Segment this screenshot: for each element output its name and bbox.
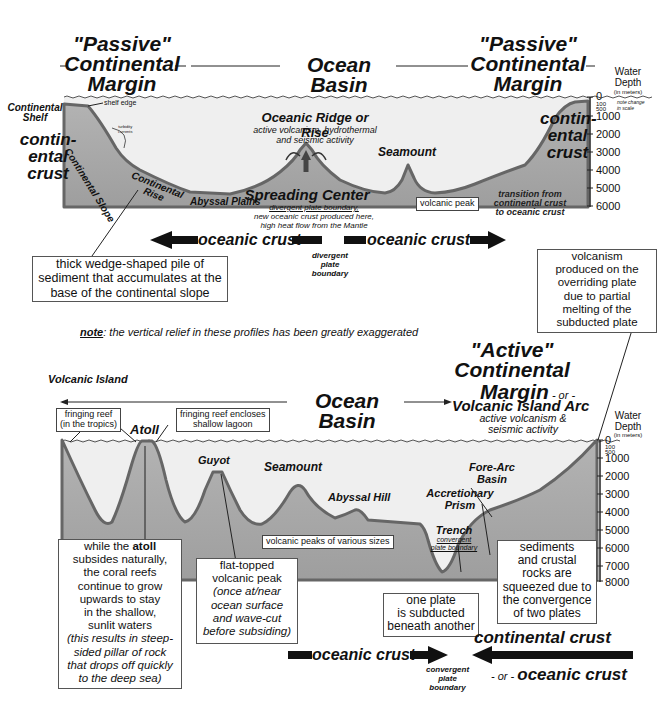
label-line: Basin [462,473,522,485]
header-line: Margin [468,74,588,94]
label-volcanic-peaks: volcanic peaks of various sizes [262,535,394,549]
label-accretionary-prism: Accretionary Prism [420,487,500,511]
label-line: contin- [540,110,595,127]
desc-line: seismic activity [468,424,578,435]
callout-line: (this results in steep- [59,632,181,645]
header-passive-margin-left: "Passive" Continental Margin [62,34,182,94]
axis-title-units: (in meters) [600,88,656,96]
top-tick-4000: 4000 [596,164,620,176]
label-line: Fore-Arc [462,461,522,473]
callout-atoll: while the atoll subsides naturally, the … [58,539,182,689]
callout-sediment-wedge: thick wedge-shaped pile of sediment that… [32,256,228,302]
callout-line: (once at/near [197,585,297,598]
label-shelf-edge: shelf edge [104,99,136,106]
label-spreading-center-desc: divergent plate boundary, new oceanic cr… [244,203,384,230]
header-line: Continental [468,54,588,74]
callout-line: the coral reefs [59,566,181,579]
label-line: convergent [420,665,475,674]
top-oceanic-crust-right: oceanic crust [367,231,470,249]
label-volcanic-peak: volcanic peak [416,197,479,211]
callout-text: while the [84,540,133,552]
label-seamount-top: Seamount [378,145,436,159]
label-convergent-boundary: convergent plate boundary [420,665,475,692]
top-tick-1000: 1000 [596,110,620,122]
callout-line: base of the continental slope [33,286,227,300]
label-line: contin- [18,131,78,148]
callout-line: in the shallow, [59,606,181,619]
label-line: plate boundary [424,544,484,552]
ocean-basin-arrowhead-left [60,399,68,405]
label-line: crust [540,144,595,161]
bottom-tick-4000: 4000 [605,506,629,518]
callout-line: of two plates [498,607,596,620]
axis-title-line: Water [600,410,656,421]
callout-line: continue to grow [59,580,181,593]
note-prefix: note [80,326,103,338]
callout-line: thick wedge-shaped pile of [33,257,227,271]
callout-bold: atoll [132,540,156,552]
desc-line: high heat flow from the Mantle [244,221,384,230]
top-tick-2000: 2000 [596,128,620,140]
callout-volcanism: volcanism produced on the overriding pla… [537,249,657,333]
callout-line: subducted plate [538,316,656,329]
bottom-tick-6000: 6000 [605,542,629,554]
callout-line: while the atoll [59,540,181,553]
callout-line: flat-topped [197,559,297,572]
label-trench-desc: convergent plate boundary [424,536,484,552]
header-line: Continental [62,54,182,74]
bottom-tick-8000: 8000 [605,576,629,588]
label-divergent-boundary: divergent plate boundary [305,251,355,278]
bottom-or-oceanic-crust: - or - oceanic crust [491,665,627,685]
label-line: boundary [305,269,355,278]
label-continental-shelf: Continental Shelf [0,103,70,123]
callout-line: due to partial [538,290,656,303]
bottom-tick-5000: 5000 [605,524,629,536]
label-line: plate [305,260,355,269]
label-oceanic-ridge-desc: active volcanism, hydrothermal and seism… [250,125,380,145]
header-active-margin: "Active" Continental [452,340,572,380]
label-line: Shelf [0,113,70,123]
callout-line: volcanism [538,250,656,263]
callout-line: sided pillar of rock [59,646,181,659]
or-text: - or - [491,670,517,682]
scale-change-note: note change in scale [617,99,645,111]
bottom-continental-crust: continental crust [474,628,611,648]
top-depth-axis-title: Water Depth (in meters) [600,66,656,96]
label-seamount-bottom: Seamount [264,460,322,474]
header-ocean-basin-bottom: Ocean Basin [288,391,406,431]
callout-line: to the deep sea) [59,672,181,685]
label-fringing-lagoon: fringing reef encloses shallow lagoon [176,408,270,432]
callout-line: melting of the [538,303,656,316]
callout-line: overriding plate [538,276,656,289]
axis-title-line: Depth [600,77,656,88]
label-transition: transition from continental crust to oce… [480,190,580,217]
label-line: (in the tropics) [60,420,117,430]
label-line: ental [540,127,595,144]
label-line: to oceanic crust [480,208,580,217]
callout-line: sunlit waters [59,619,181,632]
label-turbidity-currents: turbidity currents [118,124,132,134]
callout-line: rocks are [498,567,596,580]
top-tick-6000: 6000 [596,200,620,212]
note-line: in scale [617,105,645,111]
top-oceanic-crust-left: oceanic crust [198,231,301,249]
callout-line: before subsiding) [197,625,297,638]
label-line: Accretionary [420,487,500,499]
callout-guyot: flat-topped volcanic peak (once at/near … [196,558,298,644]
callout-subduction: one plate is subducted beneath another [383,593,479,637]
desc-line: active volcanism, hydrothermal [250,125,380,135]
label-atoll: Atoll [130,422,159,437]
callout-line: volcanic peak [197,572,297,585]
header-line: "Active" [452,340,572,360]
label-line: shallow lagoon [180,420,266,430]
callout-line: sediment that accumulates at the [33,271,227,285]
label-fore-arc-basin: Fore-Arc Basin [462,461,522,485]
ocean-basin-arrowhead-right [444,399,452,405]
oceanic-crust-text: oceanic crust [517,665,627,684]
header-volcanic-island: Volcanic Island [48,373,128,385]
header-passive-margin-right: "Passive" Continental Margin [468,34,588,94]
callout-squeeze: sediments and crustal rocks are squeezed… [497,540,597,624]
label-line: currents [118,129,132,134]
callout-line: upwards to stay [59,593,181,606]
label-line: Prism [420,499,500,511]
